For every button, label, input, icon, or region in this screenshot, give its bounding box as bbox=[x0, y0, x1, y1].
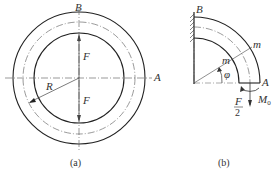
figure-b-quarter-ring: B A m m φ M0 F 2 (b) bbox=[190, 3, 271, 169]
label-m-outer: m bbox=[253, 38, 261, 50]
arrowhead-up-icon bbox=[77, 34, 81, 41]
label-F-num: F bbox=[234, 95, 242, 107]
inner-arc bbox=[194, 38, 239, 83]
label-phi: φ bbox=[224, 68, 230, 80]
radius-line bbox=[30, 78, 79, 102]
label-F-top: F bbox=[82, 50, 90, 62]
label-R: R bbox=[45, 80, 53, 92]
moment-arrowhead-icon bbox=[240, 86, 245, 92]
radius-arrowhead-icon bbox=[29, 98, 36, 103]
label-B: B bbox=[75, 1, 82, 13]
label-F-den: 2 bbox=[235, 107, 240, 118]
ring-diagrams: B A F F R (a) B A m m φ M0 F bbox=[0, 0, 275, 182]
caption-b: (b) bbox=[218, 157, 230, 169]
label-A: A bbox=[153, 71, 161, 83]
figure-a-full-ring: B A F F R (a) bbox=[5, 1, 161, 169]
angle-arrowhead-icon bbox=[217, 67, 222, 72]
label-A: A bbox=[261, 76, 269, 88]
label-M0: M0 bbox=[257, 93, 271, 107]
label-B: B bbox=[196, 3, 203, 15]
label-m-inner: m bbox=[222, 54, 230, 66]
label-F-bottom: F bbox=[82, 94, 90, 106]
caption-a: (a) bbox=[70, 157, 81, 169]
arrowhead-down-icon bbox=[248, 100, 252, 107]
arrowhead-down-icon bbox=[77, 115, 81, 122]
